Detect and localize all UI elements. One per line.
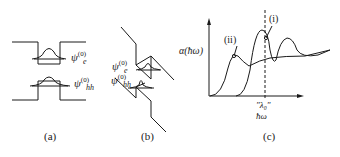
psi-e-label-a: ψ(0)e bbox=[71, 51, 87, 63]
electron-wavefunction bbox=[32, 49, 66, 60]
psi-e-label-b: ψ(0)e bbox=[112, 60, 128, 72]
caption-b: (b) bbox=[141, 130, 154, 142]
psi-hh-label-a: ψ(0)hh bbox=[74, 77, 94, 89]
tilted-conduction-band bbox=[121, 27, 174, 80]
absorption-curve-ii bbox=[210, 50, 330, 96]
psi-hh-label-b: ψ(0)hh bbox=[111, 74, 131, 86]
absorption-curve-i bbox=[236, 30, 330, 96]
caption-a: (a) bbox=[44, 130, 56, 142]
x-axis-label: ħω bbox=[256, 111, 267, 121]
curve-label-ii: (ii) bbox=[224, 34, 236, 45]
lambda0-label: "λ₀" bbox=[256, 100, 271, 110]
curve-label-i: (i) bbox=[269, 13, 278, 24]
electron-wavefunction-shifted bbox=[136, 64, 161, 71]
caption-c: (c) bbox=[263, 130, 275, 142]
y-axis-label: α(ħω) bbox=[179, 45, 203, 56]
